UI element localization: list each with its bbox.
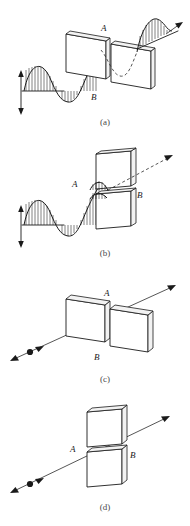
polarization-figure: A B (a) bbox=[0, 0, 190, 526]
label-plate-a-left-d: A bbox=[69, 444, 76, 454]
panel-c: A B (c) bbox=[0, 260, 190, 390]
polarization-dot-marker-c bbox=[27, 349, 33, 355]
label-plate-b-right-b: B bbox=[137, 190, 143, 200]
plate-a-left bbox=[66, 31, 110, 79]
plate-b-right-c bbox=[110, 305, 153, 352]
caption-b: (b) bbox=[100, 248, 111, 258]
plate-upper-d bbox=[87, 405, 127, 447]
incoming-wave-hatching-b bbox=[26, 184, 99, 236]
caption-d: (d) bbox=[100, 502, 111, 512]
caption-a: (a) bbox=[100, 117, 110, 127]
polarization-double-arrow-b bbox=[18, 205, 24, 248]
plate-lower-d bbox=[87, 445, 127, 487]
panel-c-drawing: A B (c) bbox=[0, 260, 190, 390]
panel-d: A B (d) bbox=[0, 390, 190, 526]
label-plate-a-top: A bbox=[100, 23, 107, 33]
label-plate-b-right-d: B bbox=[130, 450, 136, 460]
plate-a-left-c bbox=[66, 295, 110, 342]
label-plate-b-bottom-c: B bbox=[94, 352, 100, 362]
panel-b-drawing: A B (b) bbox=[0, 132, 190, 260]
label-plate-a-top-c: A bbox=[103, 288, 110, 298]
label-plate-a-left-b: A bbox=[71, 179, 78, 189]
polarization-dot-marker-d bbox=[27, 481, 33, 487]
polarization-double-arrow-a bbox=[18, 70, 24, 115]
panel-b: A B (b) bbox=[0, 132, 190, 260]
panel-d-drawing: A B (d) bbox=[0, 390, 190, 526]
panel-a: A B (a) bbox=[0, 0, 190, 132]
panel-a-drawing: A B (a) bbox=[0, 0, 190, 132]
label-plate-b-bottom: B bbox=[91, 92, 97, 102]
plate-b-right bbox=[111, 41, 155, 89]
caption-c: (c) bbox=[100, 374, 110, 384]
